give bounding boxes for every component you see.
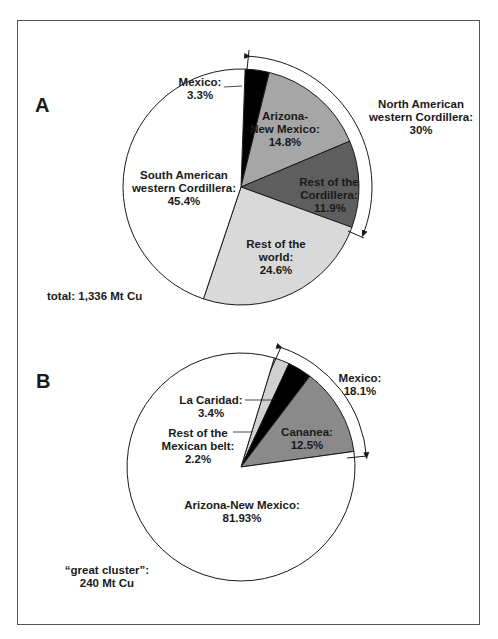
label-arizona: Arizona- [262, 110, 308, 122]
value-rest-world: 24.6% [260, 264, 293, 276]
label-la-caridad: La Caridad: [179, 394, 242, 406]
label-rest-belt-2: Mexican belt: [162, 440, 235, 452]
panel-label-a: A [35, 94, 49, 116]
value-arizona: 14.8% [269, 136, 302, 148]
label-rest-cordillera-2: Cordillera: [300, 189, 358, 201]
value-arizona-b: 81.93% [222, 512, 261, 524]
value-mexico: 3.3% [187, 89, 213, 101]
label-rest-belt: Rest of the [168, 427, 227, 439]
pie-charts: A B Mexico: 3.3% Arizona- New Mexico: 14… [0, 0, 498, 639]
label-south-american-2: western Cordillera: [131, 182, 236, 194]
label-arizona-b: Arizona-New Mexico: [184, 499, 300, 511]
value-south-american: 45.4% [168, 195, 201, 207]
label-mexico: Mexico: [179, 76, 222, 88]
label-arizona-2: New Mexico: [250, 123, 320, 135]
value-north-american: 30% [409, 124, 432, 136]
label-rest-cordillera: Rest of the [299, 176, 358, 188]
label-rest-world: Rest of the [246, 238, 305, 250]
value-rest-belt: 2.2% [185, 453, 211, 465]
pie-chart-b [127, 353, 355, 581]
value-cananea: 12.5% [291, 439, 324, 451]
value-great-cluster: 240 Mt Cu [80, 577, 134, 589]
label-south-american: South American [140, 169, 228, 181]
label-rest-world-2: world: [258, 251, 294, 263]
value-mexico-b: 18.1% [344, 385, 377, 397]
panel-label-b: B [36, 370, 50, 392]
value-rest-cordillera: 11.9% [314, 202, 346, 214]
label-mexico-b: Mexico: [339, 372, 382, 384]
value-la-caridad: 3.4% [198, 407, 224, 419]
label-cananea: Cananea: [281, 426, 333, 438]
label-north-american-2: western Cordillera: [368, 111, 473, 123]
label-great-cluster: “great cluster”: [65, 564, 149, 576]
total-label-a: total: 1,336 Mt Cu [47, 290, 142, 302]
label-north-american: North American [378, 98, 464, 110]
